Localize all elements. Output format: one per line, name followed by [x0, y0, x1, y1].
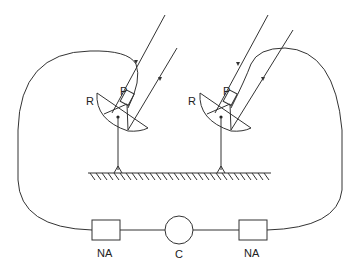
reflector-label: R: [86, 95, 94, 107]
cables: [18, 48, 342, 230]
feed-label: P: [120, 85, 127, 97]
diagram-canvas: R P R P NA C NA: [0, 0, 354, 271]
feed-label: P: [223, 85, 230, 97]
ray-arrow-icon: [236, 62, 240, 66]
reflector-right: [200, 93, 251, 131]
incoming-rays-right: [215, 15, 293, 130]
amplifier-right: [239, 220, 267, 240]
incoming-rays-left: [112, 15, 177, 130]
reflector-label: R: [188, 95, 196, 107]
reflector-left: [97, 93, 148, 131]
ground: [88, 173, 271, 180]
correlator: [165, 216, 193, 244]
dish-right: R P: [188, 85, 251, 173]
na-left-label: NA: [97, 247, 113, 259]
dish-left: R P: [86, 85, 148, 173]
combiner-label: C: [175, 248, 183, 260]
amplifier-left: [92, 220, 120, 240]
na-right-label: NA: [244, 247, 260, 259]
radio-interferometer-diagram: R P R P NA C NA: [0, 0, 354, 271]
